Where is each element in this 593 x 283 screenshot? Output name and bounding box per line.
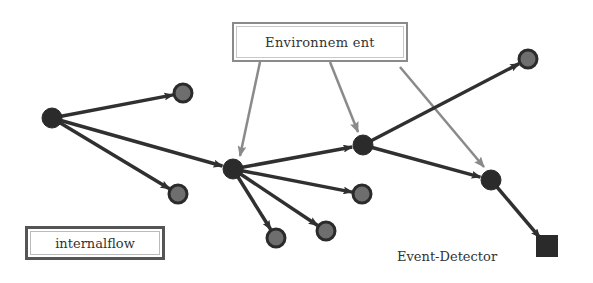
edge-E-F — [363, 64, 519, 145]
graph-node-C — [169, 185, 187, 203]
edge-D-E — [233, 147, 352, 169]
flow-edges — [52, 64, 540, 238]
environment-box: Environnem ent — [232, 22, 408, 62]
environment-edge-1 — [330, 62, 358, 132]
edge-E-G — [363, 145, 480, 177]
graph-node-E — [353, 135, 373, 155]
graph-node-I — [267, 229, 285, 247]
internal-flow-box: internalflow — [25, 226, 165, 260]
graph-node-J — [317, 222, 335, 240]
graph-node-F — [519, 50, 537, 68]
edge-D-I — [233, 169, 271, 230]
graph-node-A — [42, 108, 62, 128]
environment-edge-0 — [240, 62, 260, 156]
edge-G-DET — [491, 180, 540, 238]
edge-A-C — [52, 118, 169, 189]
event-detector-label: Event-Detector — [397, 249, 497, 264]
internal-flow-label: internalflow — [55, 236, 135, 251]
graph-node-H — [353, 185, 371, 203]
environment-label: Environnem ent — [265, 35, 375, 50]
environment-edge-2 — [400, 67, 484, 167]
edge-A-B — [52, 95, 173, 118]
graph-node-D — [223, 159, 243, 179]
edge-A-D — [52, 118, 222, 166]
graph-node-G — [481, 170, 501, 190]
event-detector-node — [536, 235, 558, 257]
graph-node-B — [174, 84, 192, 102]
